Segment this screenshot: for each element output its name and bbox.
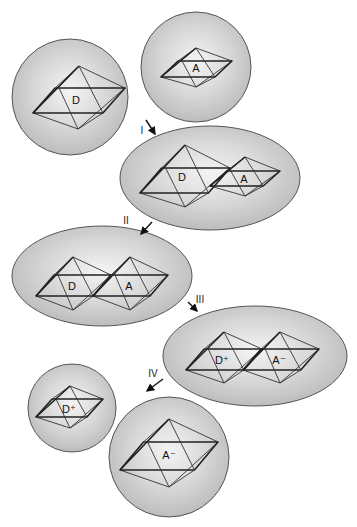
- complex-label: A⁻: [162, 449, 175, 461]
- step-III: III: [188, 294, 204, 311]
- complex-label: A: [125, 280, 133, 292]
- complex-label: A⁻: [272, 354, 285, 366]
- complex-label: A: [240, 173, 248, 185]
- activated-shell: [12, 226, 192, 326]
- complex-label: D: [68, 280, 76, 292]
- electron-transfer-diagram: DADADAD⁺A⁻D⁺A⁻ IIIIIIIV: [0, 0, 357, 527]
- step-label: II: [123, 215, 129, 226]
- complex-label: D⁺: [62, 403, 76, 415]
- step-label: III: [196, 294, 204, 305]
- arrow-icon: [146, 120, 155, 134]
- step-label: IV: [148, 368, 158, 379]
- complex-label: D: [72, 94, 80, 106]
- step-I: I: [141, 120, 155, 136]
- complex-label: D⁺: [215, 354, 229, 366]
- complex-label: D: [178, 171, 186, 183]
- complex-label: A: [192, 62, 200, 74]
- arrow-icon: [147, 379, 163, 391]
- donor-shell: [12, 39, 128, 155]
- step-IV: IV: [147, 368, 163, 391]
- step-label: I: [141, 125, 144, 136]
